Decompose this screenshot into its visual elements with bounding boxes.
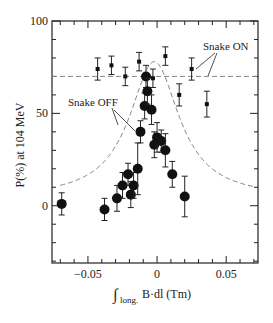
snake-on-point xyxy=(150,69,156,87)
snake-off-point xyxy=(57,193,67,215)
integral-sign: ∫ xyxy=(112,286,119,305)
square-marker xyxy=(96,67,100,71)
circle-marker xyxy=(57,199,67,209)
snake-off-point xyxy=(141,65,151,87)
snake-off-point xyxy=(180,176,190,217)
square-marker xyxy=(151,76,155,80)
snake-off-point xyxy=(135,121,145,143)
snake-on-label: Snake ON xyxy=(203,40,249,52)
circle-marker xyxy=(141,71,151,81)
square-marker xyxy=(123,74,127,78)
snake-off-point xyxy=(140,93,150,119)
y-axis-label: P(%) at 104 MeV xyxy=(13,102,27,187)
axis-tick-labels: −0.0500.05050100 xyxy=(30,14,237,281)
circle-marker xyxy=(129,180,139,190)
x-axis-label-main: B·dl (Tm) xyxy=(142,287,191,301)
arrow-line xyxy=(208,53,217,76)
x-tick-label: 0 xyxy=(154,267,160,281)
snake-off-point xyxy=(147,95,157,125)
snake-off-point xyxy=(142,78,152,104)
circle-marker xyxy=(160,145,170,155)
circle-marker xyxy=(100,204,110,214)
circle-marker xyxy=(167,169,177,179)
arrow-line xyxy=(196,53,215,69)
snake-on-point xyxy=(136,52,142,70)
snake-on-point xyxy=(108,56,114,74)
x-axis-label: ∫ long. B·dl (Tm) xyxy=(112,286,191,305)
y-tick-label: 0 xyxy=(42,199,48,213)
circle-marker xyxy=(156,136,166,146)
x-axis-label-sub: long. xyxy=(120,295,138,305)
square-marker xyxy=(137,60,141,64)
x-tick-label: 0.05 xyxy=(216,267,237,281)
square-marker xyxy=(177,93,181,97)
fit-curves xyxy=(52,62,258,187)
y-tick-label: 100 xyxy=(30,14,48,28)
x-tick-label: −0.05 xyxy=(74,267,102,281)
square-marker xyxy=(190,67,194,71)
square-marker xyxy=(109,63,113,67)
y-tick-label: 50 xyxy=(36,106,48,120)
snake-off-point xyxy=(100,198,110,220)
snake-on-point xyxy=(176,84,182,106)
circle-marker xyxy=(123,169,133,179)
circle-marker xyxy=(133,164,143,174)
snake-off-point xyxy=(167,161,177,187)
square-marker xyxy=(205,102,209,106)
snake-off-label: Snake OFF xyxy=(68,96,118,108)
square-marker xyxy=(163,54,167,58)
snake-on-point xyxy=(204,91,210,117)
annotations: Snake ONSnake OFF xyxy=(68,40,249,131)
circle-marker xyxy=(135,127,145,137)
circle-marker xyxy=(180,191,190,201)
polarization-chart: −0.0500.05050100 Snake ONSnake OFF P(%) … xyxy=(0,0,273,323)
snake-on-point xyxy=(162,47,168,65)
circle-marker xyxy=(147,105,157,115)
